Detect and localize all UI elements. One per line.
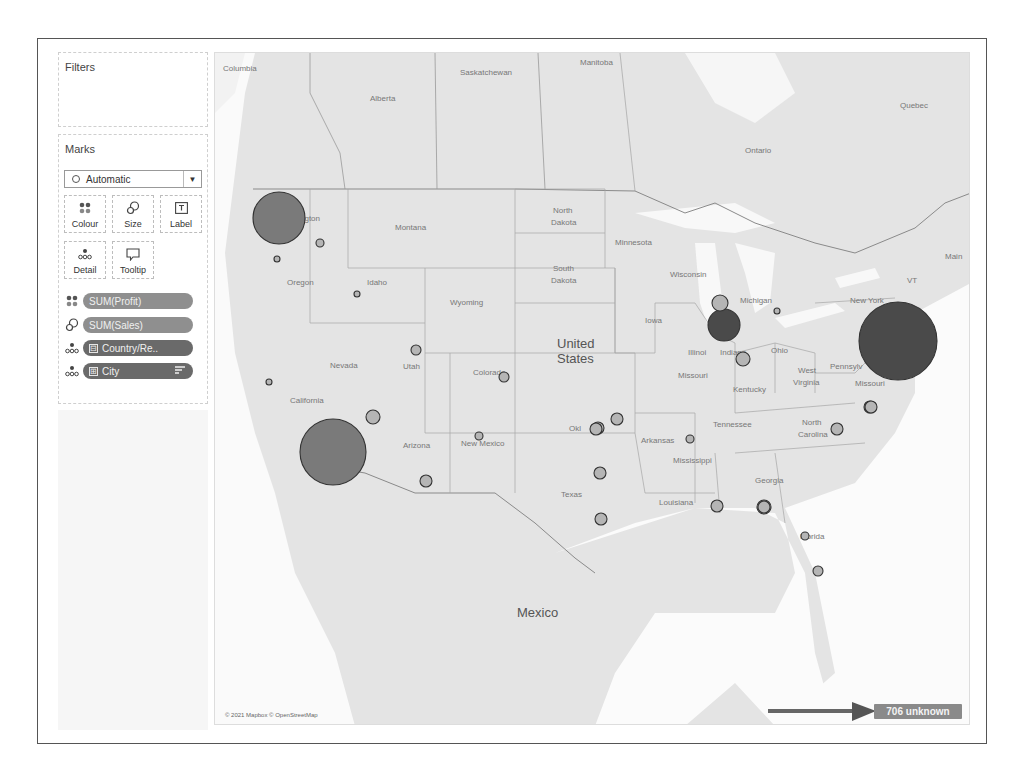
svg-text:Iowa: Iowa (645, 316, 662, 325)
svg-text:Ontario: Ontario (745, 146, 772, 155)
expand-icon[interactable]: ⊞ (89, 367, 98, 376)
circle-icon (72, 175, 80, 183)
city-mark[interactable] (475, 432, 483, 440)
city-mark[interactable] (611, 413, 623, 425)
svg-text:West: West (798, 366, 817, 375)
chevron-down-icon[interactable]: ▼ (183, 171, 201, 187)
svg-text:Illinoi: Illinoi (688, 348, 706, 357)
city-mark[interactable] (813, 566, 823, 576)
colour-label: Colour (72, 219, 99, 229)
city-mark[interactable] (590, 423, 602, 435)
shelf-row-country: ⊟ Country/Re.. (65, 340, 193, 356)
tooltip-button[interactable]: Tooltip (112, 241, 154, 279)
filters-title: Filters (65, 61, 95, 73)
city-mark[interactable] (865, 401, 877, 413)
svg-text:South: South (553, 264, 574, 273)
city-mark[interactable] (708, 309, 740, 341)
svg-text:Manitoba: Manitoba (580, 58, 613, 67)
svg-text:Georgia: Georgia (755, 476, 784, 485)
city-mark[interactable] (411, 345, 421, 355)
marks-title: Marks (65, 143, 95, 155)
country-pill[interactable]: ⊟ Country/Re.. (83, 340, 193, 356)
city-mark[interactable] (712, 295, 728, 311)
size-label: Size (124, 219, 142, 229)
city-pill-label: City (102, 366, 119, 377)
sidebar-empty-area (58, 410, 208, 730)
mark-type-dropdown[interactable]: Automatic ▼ (64, 170, 202, 188)
svg-text:Kentucky: Kentucky (733, 385, 766, 394)
city-mark[interactable] (831, 423, 843, 435)
map-view[interactable]: Columbia Alberta Saskatchewan Manitoba O… (214, 52, 970, 725)
svg-text:Missouri: Missouri (678, 371, 708, 380)
collapse-icon[interactable]: ⊟ (89, 344, 98, 353)
svg-text:Mexico: Mexico (517, 605, 558, 620)
map-attribution[interactable]: © 2021 Mapbox © OpenStreetMap (225, 712, 318, 718)
svg-text:Quebec: Quebec (900, 101, 928, 110)
city-mark[interactable] (274, 256, 280, 262)
city-mark[interactable] (316, 239, 324, 247)
svg-text:Wyoming: Wyoming (450, 298, 483, 307)
svg-text:Carolina: Carolina (798, 430, 828, 439)
city-mark[interactable] (801, 532, 809, 540)
sales-pill[interactable]: SUM(Sales) (83, 317, 193, 333)
svg-text:Main: Main (945, 252, 962, 261)
city-mark[interactable] (366, 410, 380, 424)
svg-text:Alberta: Alberta (370, 94, 396, 103)
city-mark[interactable] (736, 352, 750, 366)
mark-type-label: Automatic (86, 174, 183, 185)
svg-text:VT: VT (907, 276, 917, 285)
detail-button[interactable]: Detail (64, 241, 106, 279)
size-icon (126, 200, 140, 216)
detail-icon (65, 364, 79, 378)
svg-text:Missouri: Missouri (855, 379, 885, 388)
svg-text:New Mexico: New Mexico (461, 439, 505, 448)
svg-text:Utah: Utah (403, 362, 420, 371)
svg-text:North: North (553, 206, 573, 215)
label-button[interactable]: Label (160, 195, 202, 233)
filters-shelf[interactable]: Filters (58, 52, 208, 127)
svg-text:Mississippi: Mississippi (673, 456, 712, 465)
label-united-states: United States (557, 336, 598, 366)
map-canvas: Columbia Alberta Saskatchewan Manitoba O… (215, 53, 970, 725)
svg-text:Arizona: Arizona (403, 441, 431, 450)
label-columbia: Columbia (223, 64, 257, 73)
svg-text:North: North (802, 418, 822, 427)
sales-pill-label: SUM(Sales) (89, 320, 143, 331)
svg-text:Saskatchewan: Saskatchewan (460, 68, 512, 77)
annotation-arrow-icon (768, 702, 878, 722)
city-mark[interactable] (420, 475, 432, 487)
city-mark[interactable] (354, 291, 360, 297)
city-mark[interactable] (266, 379, 272, 385)
svg-text:Michigan: Michigan (740, 296, 772, 305)
profit-pill[interactable]: SUM(Profit) (83, 293, 193, 309)
shelf-row-sales: SUM(Sales) (65, 317, 193, 333)
label-label: Label (170, 219, 192, 229)
city-mark[interactable] (499, 372, 509, 382)
unknown-locations-badge[interactable]: 706 unknown (874, 704, 962, 719)
svg-text:Dakota: Dakota (551, 276, 577, 285)
city-mark[interactable] (595, 513, 607, 525)
svg-text:Montana: Montana (395, 223, 427, 232)
label-icon (175, 200, 188, 216)
svg-text:Nevada: Nevada (330, 361, 358, 370)
city-mark[interactable] (774, 308, 780, 314)
colour-button[interactable]: Colour (64, 195, 106, 233)
city-mark[interactable] (253, 192, 305, 244)
size-icon (65, 318, 79, 332)
city-mark[interactable] (594, 467, 606, 479)
marks-card: Marks Automatic ▼ Colour Size Label Deta… (58, 134, 208, 404)
city-mark[interactable] (300, 419, 366, 485)
size-button[interactable]: Size (112, 195, 154, 233)
tooltip-icon (126, 246, 140, 262)
city-mark[interactable] (711, 500, 723, 512)
detail-icon (65, 341, 79, 355)
svg-text:Dakota: Dakota (551, 218, 577, 227)
city-pill[interactable]: ⊞ City (83, 363, 193, 379)
city-mark[interactable] (758, 501, 770, 513)
svg-text:Wisconsin: Wisconsin (670, 270, 706, 279)
city-mark[interactable] (859, 302, 937, 380)
detail-icon (78, 246, 92, 262)
colour-icon (65, 294, 79, 308)
sort-icon[interactable] (175, 366, 185, 376)
city-mark[interactable] (686, 435, 694, 443)
